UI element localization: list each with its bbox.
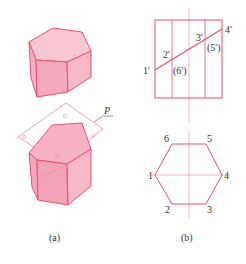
plane-p-label: P [103,105,110,116]
label-6: 6 [164,133,169,144]
caption-a: (a) [49,232,60,244]
label-2: 2 [165,204,170,215]
cut-front-face [37,160,68,205]
label-1: 1 [148,170,153,181]
label-4: 4 [224,170,229,181]
top-hexagon [155,144,222,204]
label-5p: (5') [207,42,220,54]
prism-front-face [36,60,68,97]
label-6p: (6') [173,65,186,77]
label-2p: 2' [163,49,170,60]
label-4p: 4' [225,24,232,35]
figure-canvas: P (a) 1' 2' 3' 4' (5') (6') 1 2 3 4 5 6 … [0,0,246,264]
caption-b: (b) [181,232,193,244]
label-3: 3 [207,204,212,215]
label-1p: 1' [143,65,150,76]
label-3p: 3' [196,32,203,43]
label-5: 5 [207,133,212,144]
p-leader-line [94,116,103,122]
top-view: 1 2 3 4 5 6 [148,130,230,218]
cut-prism-with-plane: P [18,103,113,205]
front-view: 1' 2' 3' 4' (5') (6') [143,8,232,122]
hexagonal-prism [29,28,91,97]
